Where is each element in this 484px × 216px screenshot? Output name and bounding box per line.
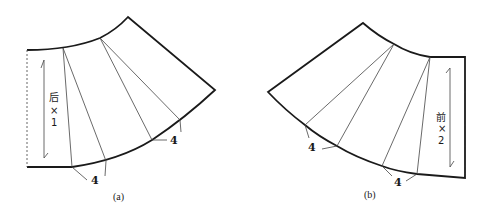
panel-b-pleat-line xyxy=(382,57,430,166)
panel-a-grain-char: 后 xyxy=(49,92,59,103)
panel-b-leader xyxy=(406,174,417,181)
panel-a-arrowhead-icon xyxy=(41,60,44,68)
panel-a-caption: (a) xyxy=(113,191,124,203)
panel-b-outline xyxy=(268,23,465,178)
panel-b-pleat-label: 4 xyxy=(308,141,316,154)
panel-b-caption: (b) xyxy=(364,189,376,201)
panel-a-grain-count: 1 xyxy=(51,117,57,128)
panel-a-leader xyxy=(180,120,181,132)
panel-a-pleat-label: 4 xyxy=(91,174,99,187)
panel-a-grain-times: × xyxy=(50,105,58,116)
panel-a-leader xyxy=(105,161,106,176)
panel-b-grain-count: 2 xyxy=(438,135,444,146)
panel-a-arrowhead-icon xyxy=(44,153,48,158)
panel-b-front-piece: 前 × 2 4 4 (b) xyxy=(268,23,465,201)
panel-a-pleat-line xyxy=(63,48,106,161)
panel-b-arrowhead-icon xyxy=(450,161,454,167)
panel-b-grain-times: × xyxy=(438,123,446,134)
panel-a-leader xyxy=(72,167,87,180)
panel-b-pleat-label: 4 xyxy=(394,176,402,189)
panel-b-leader xyxy=(322,146,337,149)
panel-a-pleat-line xyxy=(63,48,72,167)
panel-a-back-piece: 后 × 1 4 4 (a) xyxy=(27,17,215,203)
panel-b-pleat-line xyxy=(337,44,394,146)
panel-b-grain-char: 前 xyxy=(436,111,446,123)
panel-a-pleat-line xyxy=(100,38,152,140)
pattern-diagram: 后 × 1 4 4 (a) 前 × 2 4 4 (b) xyxy=(0,0,484,216)
panel-b-arrowhead-icon xyxy=(446,68,450,73)
panel-b-pleat-line xyxy=(417,57,430,174)
panel-a-pleat-label: 4 xyxy=(170,134,178,147)
